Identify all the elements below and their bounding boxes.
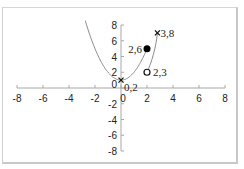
- filled-circle-marker-icon: [144, 45, 151, 52]
- open-circle-marker-icon: [144, 69, 150, 75]
- data-point-labels: 0,22,62,33,8: [124, 27, 175, 93]
- y-tick-label: 6: [111, 36, 117, 47]
- point-label: 0,2: [124, 81, 138, 93]
- x-tick-label: 2: [144, 93, 150, 104]
- x-tick-label: 4: [170, 93, 176, 104]
- x-tick-label: -8: [13, 93, 22, 104]
- x-tick-label: -4: [65, 93, 74, 104]
- point-label: 3,8: [160, 27, 174, 39]
- point-label: 2,6: [128, 43, 142, 55]
- x-tick-label: 6: [196, 93, 202, 104]
- y-tick-label: -2: [108, 99, 117, 110]
- y-tick-label: -6: [108, 130, 117, 141]
- x-tick-label: -6: [39, 93, 48, 104]
- x-tick-label: -2: [91, 93, 100, 104]
- y-tick-label: 0: [111, 79, 117, 90]
- y-tick-label: -8: [108, 146, 117, 157]
- x-tick-label: 8: [222, 93, 228, 104]
- x-axis-tick-labels: -8-6-4-202468: [13, 93, 229, 104]
- x-tick-label: 0: [120, 93, 126, 104]
- y-tick-label: 4: [111, 52, 117, 63]
- point-label: 2,3: [153, 66, 167, 78]
- y-tick-label: 8: [111, 20, 117, 31]
- y-tick-label: -4: [108, 115, 117, 126]
- plot-svg: -8-6-4-202468 86420-2-4-6-8 0,22,62,33,8: [0, 0, 244, 169]
